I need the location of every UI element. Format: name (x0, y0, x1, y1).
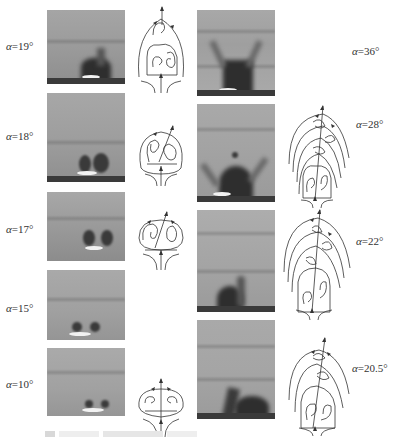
alpha-label-22: α=22° (356, 235, 383, 247)
streamline-diagram-alpha-17 (133, 210, 189, 272)
figure-caption-cropped (45, 431, 345, 439)
alpha-label-28: α=28° (356, 118, 383, 130)
alpha-label-10: α=10° (6, 378, 33, 390)
streamline-diagram-alpha-18 (133, 122, 189, 188)
flow-photo-alpha-28 (197, 104, 275, 202)
streamline-diagram-alpha-19 (133, 5, 189, 95)
alpha-label-18: α=18° (6, 130, 33, 142)
flow-photo-alpha-22 (197, 210, 275, 312)
alpha-label-20-5: α=20.5° (352, 362, 388, 374)
flow-photo-alpha-10 (47, 348, 125, 416)
alpha-label-19: α=19° (6, 40, 33, 52)
alpha-label-15: α=15° (6, 302, 33, 314)
flow-photo-alpha-18 (47, 93, 125, 182)
flow-photo-alpha-17 (47, 192, 125, 261)
streamline-diagram-alpha-10 (133, 377, 189, 439)
alpha-label-17: α=17° (6, 223, 33, 235)
flow-photo-alpha-19 (47, 10, 125, 84)
alpha-label-36: α=36° (352, 45, 379, 57)
streamline-diagram-alpha-22 (282, 208, 354, 320)
flow-photo-alpha-15 (47, 270, 125, 340)
streamline-diagram-alpha-20-5 (285, 336, 355, 436)
streamline-diagram-alpha-28 (285, 104, 355, 210)
flow-photo-alpha-20-5 (197, 320, 275, 419)
flow-photo-alpha-36 (197, 10, 275, 96)
